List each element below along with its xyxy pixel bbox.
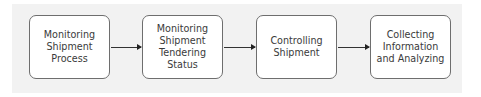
process-step-collecting-information-and-analyzing: Collecting Information and Analyzing [370, 15, 451, 79]
process-step-label: Monitoring Shipment Tendering Status [157, 23, 208, 71]
process-step-label: Collecting Information and Analyzing [377, 29, 445, 65]
process-step-label: Monitoring Shipment Process [44, 29, 95, 65]
process-step-monitoring-shipment-tendering-status: Monitoring Shipment Tendering Status [142, 15, 223, 79]
process-step-controlling-shipment: Controlling Shipment [256, 15, 337, 79]
process-step-monitoring-shipment-process: Monitoring Shipment Process [29, 15, 110, 79]
flow-arrow-3-to-4 [338, 47, 369, 48]
process-step-label: Controlling Shipment [270, 35, 322, 59]
flow-arrow-1-to-2 [111, 47, 141, 48]
flow-arrow-2-to-3 [224, 47, 255, 48]
